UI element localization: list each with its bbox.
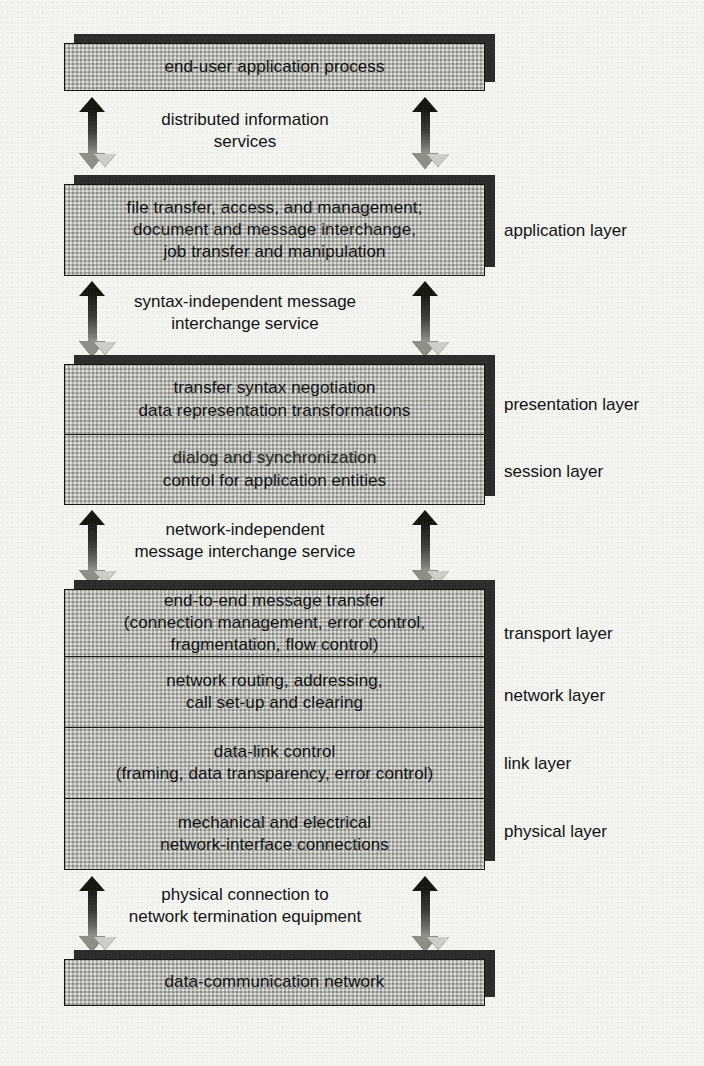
layer-label-link: link layer: [504, 754, 571, 774]
layer-label-session: session layer: [504, 462, 603, 482]
box-face: transfer syntax negotiation data represe…: [64, 364, 485, 505]
arrow-distributed-information-services-left: [79, 97, 105, 169]
cell-application-layer: file transfer, access, and management; d…: [65, 185, 484, 275]
box-face: end-to-end message transfer (connection …: [64, 589, 485, 870]
text-line: mechanical and electrical: [178, 812, 371, 834]
caption-syntax-independent-message: syntax-independent message interchange s…: [120, 291, 370, 336]
layer-label-presentation: presentation layer: [504, 395, 639, 415]
arrow-syntax-independent-left: [79, 281, 105, 357]
layer-label-transport: transport layer: [504, 624, 613, 644]
text-line: end-user application process: [164, 56, 384, 78]
arrow-shaft: [88, 889, 97, 938]
cell-presentation-layer: transfer syntax negotiation data represe…: [65, 365, 484, 434]
arrow-head-down-icon: [412, 153, 438, 169]
caption-line: network termination equipment: [105, 906, 385, 928]
text-line: fragmentation, flow control): [171, 634, 379, 656]
caption-line: network-independent: [110, 519, 380, 541]
text-line: job transfer and manipulation: [163, 241, 385, 263]
text-line: dialog and synchronization: [173, 447, 377, 469]
layer-label-physical: physical layer: [504, 822, 607, 842]
caption-physical-connection: physical connection to network terminati…: [105, 884, 385, 929]
text-line: end-to-end message transfer: [164, 590, 385, 612]
arrow-physical-connection-right: [412, 876, 438, 952]
box-face: end-user application process: [64, 43, 485, 91]
arrow-network-independent-left: [79, 510, 105, 586]
box-presentation-session-block: transfer syntax negotiation data represe…: [64, 364, 485, 505]
arrow-syntax-independent-right: [412, 281, 438, 357]
arrow-shaft: [88, 294, 97, 343]
arrow-shaft: [421, 523, 430, 572]
box-data-communication-network: data-communication network: [64, 959, 485, 1006]
text-line: network routing, addressing,: [166, 670, 382, 692]
layer-label-application: application layer: [504, 221, 627, 241]
caption-line: services: [120, 131, 370, 153]
text-line: data-link control: [214, 741, 336, 763]
arrow-distributed-information-services-right: [412, 97, 438, 169]
box-face: data-communication network: [64, 959, 485, 1006]
osi-layer-diagram: end-user application process distributed…: [0, 0, 704, 1066]
caption-network-independent-message: network-independent message interchange …: [110, 519, 380, 564]
box-face: file transfer, access, and management; d…: [64, 184, 485, 276]
arrow-shaft: [421, 889, 430, 938]
cell-end-user-application-process: end-user application process: [65, 44, 484, 90]
caption-line: interchange service: [120, 313, 370, 335]
arrow-physical-connection-left: [79, 876, 105, 952]
arrow-shaft: [88, 110, 97, 155]
arrow-shaft: [88, 523, 97, 572]
layer-label-network: network layer: [504, 686, 605, 706]
box-end-user-application-process: end-user application process: [64, 43, 485, 91]
text-line: network-interface connections: [160, 834, 389, 856]
arrow-shaft: [421, 294, 430, 343]
text-line: data representation transformations: [139, 400, 411, 422]
text-line: (connection management, error control,: [124, 612, 425, 634]
cell-network-layer: network routing, addressing, call set-up…: [65, 656, 484, 727]
caption-line: distributed information: [120, 109, 370, 131]
text-line: (framing, data transparency, error contr…: [116, 763, 434, 785]
box-transport-network-link-physical-block: end-to-end message transfer (connection …: [64, 589, 485, 870]
caption-line: message interchange service: [110, 541, 380, 563]
arrow-shaft: [421, 110, 430, 155]
text-line: call set-up and clearing: [186, 692, 363, 714]
arrow-head-down-icon: [79, 153, 105, 169]
cell-data-communication-network: data-communication network: [65, 960, 484, 1005]
text-line: document and message interchange,: [133, 219, 416, 241]
arrow-network-independent-right: [412, 510, 438, 586]
text-line: transfer syntax negotiation: [173, 377, 375, 399]
text-line: file transfer, access, and management;: [127, 197, 423, 219]
caption-line: physical connection to: [105, 884, 385, 906]
cell-session-layer: dialog and synchronization control for a…: [65, 434, 484, 504]
text-line: control for application entities: [163, 470, 386, 492]
box-application-layer: file transfer, access, and management; d…: [64, 184, 485, 276]
cell-physical-layer: mechanical and electrical network-interf…: [65, 798, 484, 869]
cell-link-layer: data-link control (framing, data transpa…: [65, 727, 484, 798]
text-line: data-communication network: [165, 971, 385, 993]
caption-line: syntax-independent message: [120, 291, 370, 313]
cell-transport-layer: end-to-end message transfer (connection …: [65, 590, 484, 656]
caption-distributed-information-services: distributed information services: [120, 109, 370, 154]
